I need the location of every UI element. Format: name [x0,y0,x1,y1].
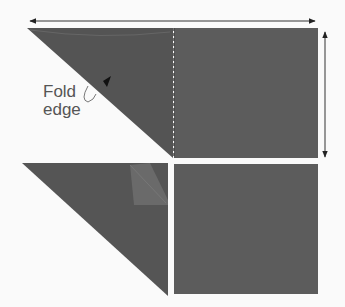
fold-label-line2: edge [43,101,81,119]
folding-diagram [0,0,345,307]
fold-label-line1: Fold [43,83,81,101]
bottom-step [22,163,318,296]
fold-edge-curve-icon [84,86,96,102]
top-square [174,28,318,158]
bottom-square [174,164,318,294]
fold-edge-label: Fold edge [43,83,81,119]
